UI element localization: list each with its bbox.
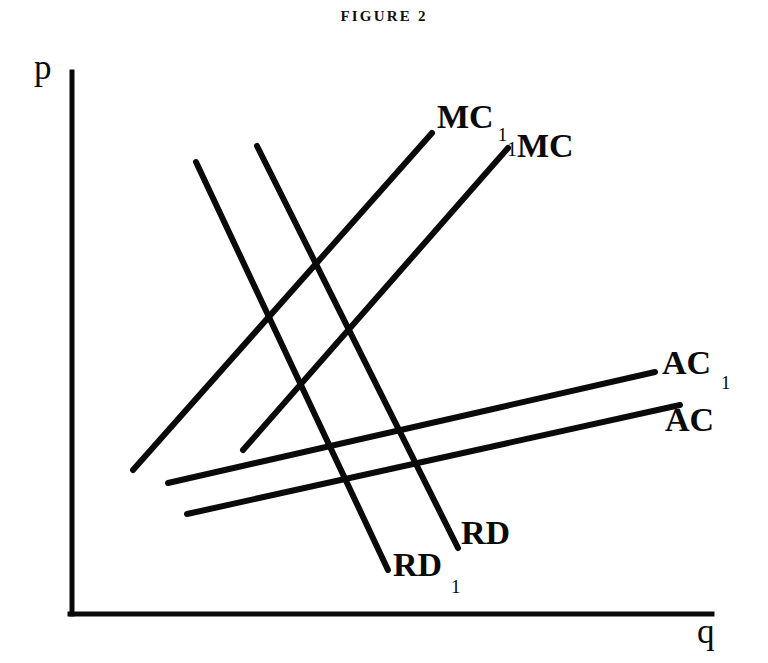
curve-mc1-line (133, 133, 432, 470)
curve-label-mc-text: MC (517, 127, 574, 164)
curve-label-ac1: AC1 (662, 346, 721, 380)
curve-label-mc1-text: MC (437, 98, 494, 135)
figure-container: FIGURE 2 p q MC1 1MC AC1 AC RD R (0, 0, 768, 663)
curve-label-mc1-subscript: 1 (498, 124, 508, 145)
curve-label-mc-subscript: 1 (507, 138, 517, 160)
curve-label-ac1-subscript: 1 (721, 372, 731, 393)
curve-label-ac: AC (665, 403, 714, 437)
y-axis-label: p (34, 50, 52, 85)
curve-label-rd-text: RD (461, 514, 510, 551)
x-axis-label: q (697, 614, 715, 649)
curve-rd-line (257, 146, 458, 548)
curves-group (133, 133, 680, 570)
axes-group (70, 72, 712, 614)
curve-label-rd1-subscript: 1 (451, 576, 461, 597)
curve-label-rd: RD (461, 516, 510, 550)
curve-label-mc1: MC1 (437, 100, 503, 134)
curve-label-mc: 1MC (507, 129, 574, 163)
curve-label-rd1: RD1 (393, 548, 452, 582)
curve-label-ac1-text: AC (662, 344, 711, 381)
curve-label-ac-text: AC (665, 401, 714, 438)
curve-label-rd1-text: RD (393, 546, 442, 583)
figure-plot-area (0, 0, 768, 663)
